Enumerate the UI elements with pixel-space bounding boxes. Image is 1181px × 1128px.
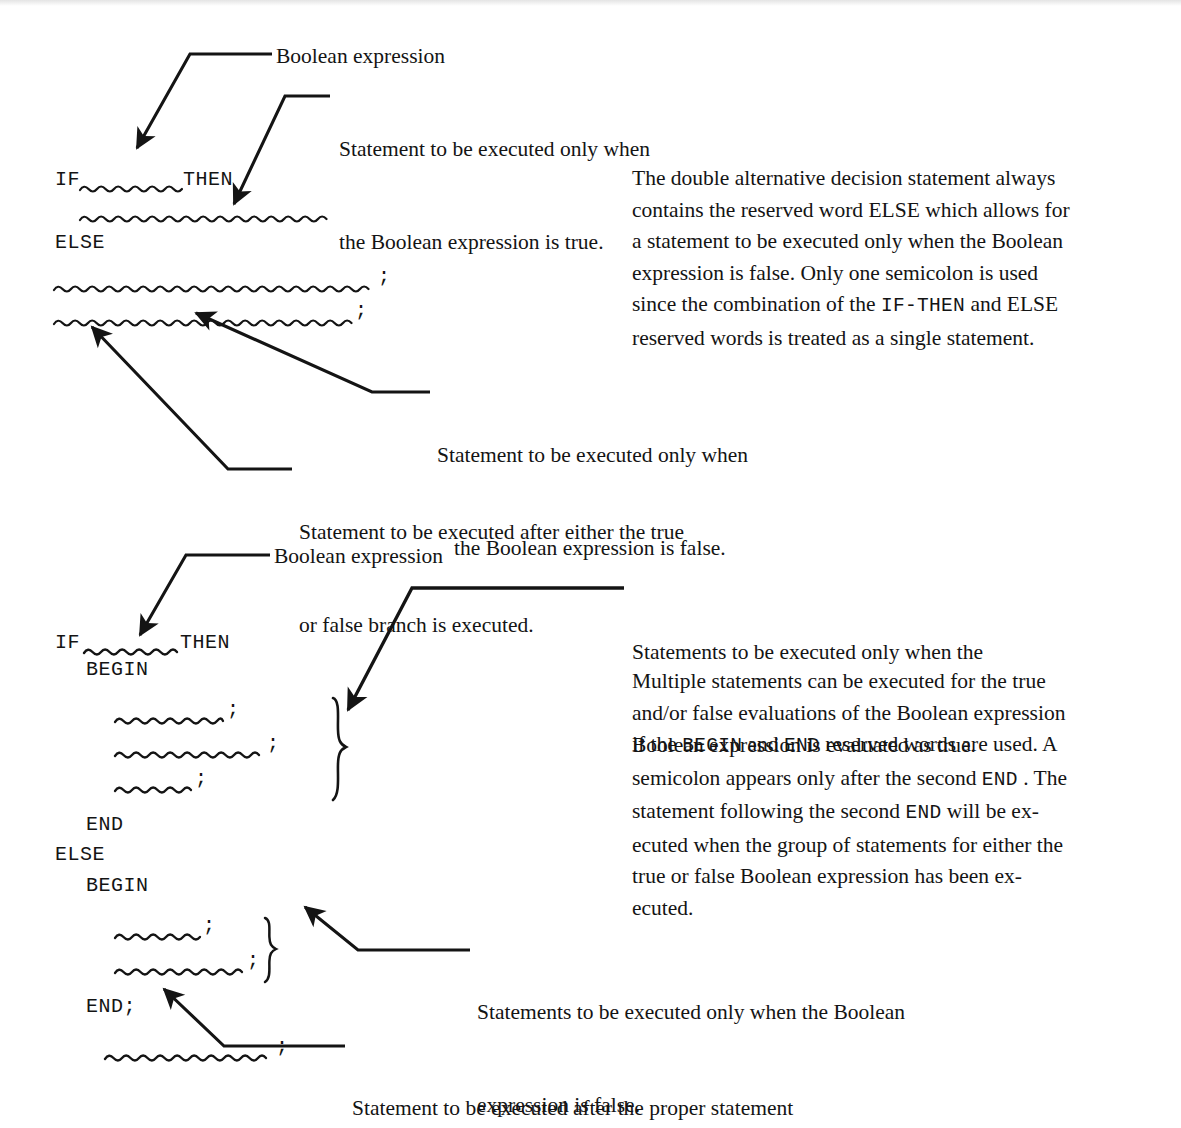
blank-wavy-false-stmt-2: [115, 965, 245, 977]
para1-line5-keyword-if-then: IF-THEN: [881, 295, 965, 317]
para1-line3: a statement to be executed only when the…: [632, 229, 1063, 253]
callout-boolean-expression-2: Boolean expression: [274, 541, 443, 572]
para2-line3-mid: and: [742, 732, 784, 756]
callout-true-statements-line1: Statements to be executed only when the: [632, 637, 983, 668]
callout-boolean-expression-1: Boolean expression: [276, 41, 445, 72]
leader-true-statements: [348, 588, 624, 710]
leader-boolean-expression: [137, 54, 272, 148]
semicolon-false-stmt-1: ;: [203, 914, 216, 937]
semicolon-true-stmt-1: ;: [227, 698, 240, 721]
blank-wavy-true-stmt-3: [115, 783, 193, 795]
para1-line1: The double alternative decision statemen…: [632, 166, 1055, 190]
para2-keyword-end-3: END: [905, 802, 941, 824]
blank-wavy-condition: [80, 181, 185, 193]
para2-line5-post: will be ex-: [941, 799, 1038, 823]
para1-line2: contains the reserved word ELSE which al…: [632, 198, 1070, 222]
para2-keyword-end-1: END: [784, 735, 820, 757]
keyword-begin-false: BEGIN: [86, 874, 149, 897]
callout-true-statement-line2: the Boolean expression is true.: [339, 227, 650, 258]
para2-line6: ecuted when the group of statements for …: [632, 833, 1063, 857]
para2-line1: Multiple statements can be executed for …: [632, 669, 1046, 693]
paragraph-multiple-statements: Multiple statements can be executed for …: [632, 666, 1160, 924]
brace-false-block: [260, 916, 282, 984]
para1-line5-post: and ELSE: [965, 292, 1058, 316]
para1-line4: expression is false. Only one semicolon …: [632, 261, 1038, 285]
para2-line2: and/or false evaluations of the Boolean …: [632, 701, 1065, 725]
para2-line7: true or false Boolean expression has bee…: [632, 864, 1022, 888]
callout-after-statement-line1: Statement to be executed after the prope…: [352, 1093, 823, 1124]
blank-wavy-after-stmt-2: [105, 1051, 273, 1063]
semicolon-after-statement: ;: [355, 299, 368, 322]
keyword-end-true: END: [86, 813, 124, 836]
leader-after-branch: [92, 327, 292, 469]
para2-line3-pre: if the: [632, 732, 682, 756]
semicolon-after-stmt-2: ;: [276, 1035, 289, 1058]
para2-line4-pre: semicolon appears only after the second: [632, 766, 982, 790]
blank-wavy-false-stmt-1: [115, 930, 203, 942]
blank-wavy-true-statement: [80, 212, 332, 224]
keyword-if: IF: [55, 168, 80, 191]
brace-true-block: [327, 696, 353, 802]
para1-line5-pre: since the combination of the: [632, 292, 881, 316]
keyword-then-2: THEN: [180, 631, 230, 654]
blank-wavy-condition-2: [84, 644, 180, 656]
keyword-if-2: IF: [55, 631, 80, 654]
keyword-begin-true: BEGIN: [86, 658, 149, 681]
para2-line4-post: . The: [1018, 766, 1067, 790]
para2-line3-post: reserved words are used. A: [820, 732, 1058, 756]
callout-true-statement-line1: Statement to be executed only when: [339, 134, 650, 165]
leader-boolean-expression-2: [140, 555, 270, 635]
para2-line8: ecuted.: [632, 896, 693, 920]
callout-after-statement-2: Statement to be executed after the prope…: [352, 1031, 823, 1128]
paragraph-double-alternative: The double alternative decision statemen…: [632, 163, 1160, 354]
semicolon-false-stmt-2: ;: [247, 949, 260, 972]
leader-true-statement: [234, 96, 330, 204]
para2-line5-pre: statement following the second: [632, 799, 905, 823]
blank-wavy-false-statement: [54, 282, 374, 294]
para2-keyword-end-2: END: [982, 769, 1018, 791]
para1-line6: reserved words is treated as a single st…: [632, 326, 1034, 350]
callout-false-statements-line1: Statements to be executed only when the …: [477, 997, 905, 1028]
leader-false-statements: [305, 907, 470, 950]
para2-keyword-begin: BEGIN: [682, 735, 742, 757]
semicolon-false-statement: ;: [378, 265, 391, 288]
blank-wavy-after-statement: [54, 316, 359, 328]
leader-after-statement-2: [164, 989, 345, 1046]
blank-wavy-true-stmt-2: [115, 748, 263, 760]
diagram-two: Boolean expression Statements to be exec…: [0, 510, 1181, 1128]
keyword-else: ELSE: [55, 231, 105, 254]
keyword-else-2: ELSE: [55, 843, 105, 866]
semicolon-true-stmt-3: ;: [195, 767, 208, 790]
blank-wavy-true-stmt-1: [115, 714, 225, 726]
diagram-one: Boolean expression Statement to be execu…: [0, 0, 1181, 510]
semicolon-true-stmt-2: ;: [267, 732, 280, 755]
keyword-then: THEN: [183, 168, 233, 191]
keyword-end-false-semicolon: END;: [86, 995, 136, 1018]
